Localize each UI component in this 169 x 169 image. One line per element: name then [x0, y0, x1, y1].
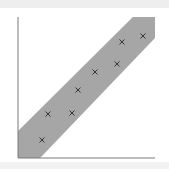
confidence-band: [18, 17, 155, 158]
scatter-chart: [0, 0, 169, 169]
band-polygon: [18, 17, 155, 158]
